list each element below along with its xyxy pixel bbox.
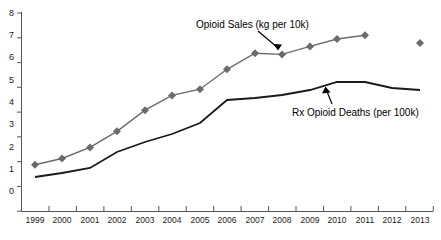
x-tick-marks bbox=[22, 206, 434, 212]
annotation-arrow-opioid-sales bbox=[258, 31, 282, 51]
series-line-opioid-sales bbox=[35, 35, 365, 164]
plot-area bbox=[0, 0, 441, 240]
opioid-chart: 8 7 6 5 4 3 2 1 0 1999 2000 2001 2002 20… bbox=[0, 0, 441, 240]
series-line-rx-opioid-deaths bbox=[35, 82, 420, 177]
annotation-arrow-rx-opioid-deaths bbox=[322, 87, 332, 105]
y-tick-marks bbox=[17, 13, 22, 211]
